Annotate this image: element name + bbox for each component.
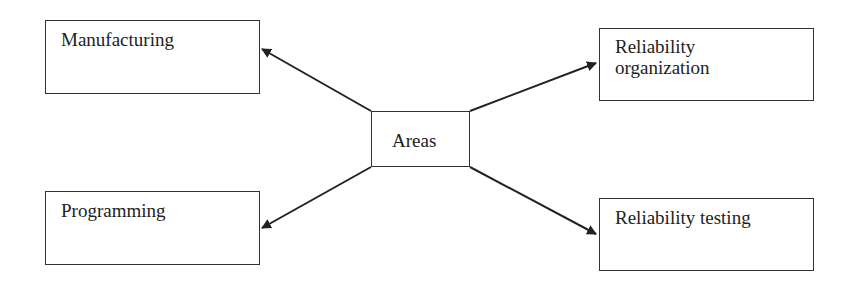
programming-label: Programming [61, 200, 259, 221]
programming-node: Programming [45, 191, 260, 265]
reliability-organization-label-line1: Reliability [615, 36, 813, 57]
arrow-to-reliability-testing [470, 167, 596, 234]
arrow-to-reliability-organization [470, 63, 596, 111]
reliability-testing-node: Reliability testing [599, 198, 814, 271]
arrow-to-programming [262, 167, 371, 228]
manufacturing-node: Manufacturing [45, 20, 260, 94]
reliability-organization-node: Reliability organization [599, 28, 814, 101]
areas-label: Areas [392, 130, 469, 151]
reliability-testing-label: Reliability testing [615, 207, 813, 228]
reliability-organization-label-line2: organization [615, 57, 813, 78]
manufacturing-label: Manufacturing [61, 29, 259, 50]
areas-center-node: Areas [371, 111, 470, 167]
arrow-to-manufacturing [262, 49, 371, 111]
